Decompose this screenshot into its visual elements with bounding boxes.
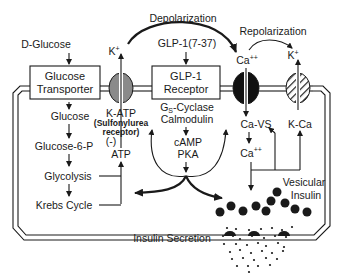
insulin-label: Insulin: [291, 189, 322, 201]
calmodulin-label: Calmodulin: [161, 113, 214, 125]
ca-channel: [233, 68, 259, 116]
pka-label: PKA: [177, 148, 198, 160]
krebs-cycle-label: Krebs Cycle: [36, 199, 93, 211]
svg-text:Glucose: Glucose: [45, 70, 85, 82]
k-ca-label: K-Ca: [288, 118, 312, 130]
k-ion-label-left: K+: [108, 45, 119, 57]
d-glucose-label: D-Glucose: [21, 38, 71, 50]
insulin-secretion-label: Insulin Secretion: [133, 232, 211, 244]
k-ion-label-right: K+: [287, 49, 298, 61]
ca-intracellular-label: Ca++: [240, 146, 262, 159]
glp1-peptide-label: GLP-1(7-37): [158, 37, 216, 49]
svg-text:Receptor: Receptor: [164, 83, 209, 95]
svg-text:GLP-1: GLP-1: [170, 70, 202, 82]
glycolysis-label: Glycolysis: [44, 170, 91, 182]
repolarization-arc: Repolarization: [239, 25, 306, 50]
inhibit-label: (-): [106, 135, 117, 147]
camp-label: cAMP: [174, 136, 202, 148]
insulin-secretion-diagram: Depolarization Repolarization D-Glucose …: [0, 0, 340, 278]
depolarization-label: Depolarization: [149, 12, 216, 24]
vesicular-label: Vesicular: [283, 176, 326, 188]
glp1-receptor-box: GLP-1 Receptor: [152, 66, 220, 99]
repolarization-label: Repolarization: [239, 25, 306, 37]
metabolism-chain: Glucose Glucose-6-P Glycolysis Krebs Cyc…: [35, 102, 93, 211]
glucose-transporter-box: Glucose Transporter: [30, 66, 100, 99]
ca-ion-label-top: Ca++: [236, 54, 258, 66]
glucose-6-p-label: Glucose-6-P: [35, 140, 93, 152]
atp-label: ATP: [111, 148, 131, 160]
k-ca-channel: [286, 60, 310, 110]
ca-vs-label: Ca-VS: [241, 118, 272, 130]
svg-text:Transporter: Transporter: [37, 83, 94, 95]
glucose-label: Glucose: [51, 110, 90, 122]
